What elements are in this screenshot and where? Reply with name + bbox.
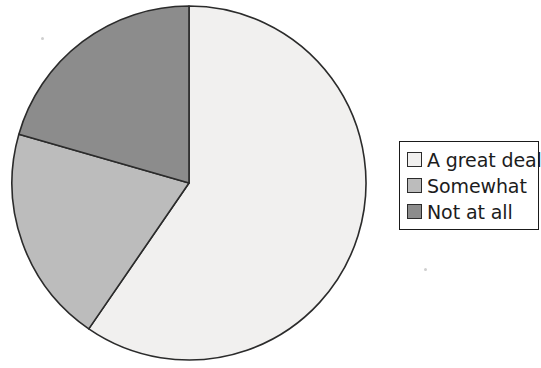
legend-swatch-icon (407, 178, 422, 193)
legend-item-a-great-deal[interactable]: A great deal (407, 147, 533, 173)
legend-swatch-icon (407, 204, 422, 219)
legend-item-label: Somewhat (427, 176, 527, 196)
legend-item-label: Not at all (427, 202, 513, 222)
legend-item-somewhat[interactable]: Somewhat (407, 173, 533, 199)
legend-item-not-at-all[interactable]: Not at all (407, 199, 533, 225)
pie-slices-group (12, 6, 366, 360)
legend: A great deal Somewhat Not at all (399, 141, 539, 230)
scan-artifact-speck (41, 37, 44, 40)
legend-swatch-icon (407, 152, 422, 167)
legend-item-label: A great deal (427, 150, 541, 170)
pie-chart-figure: A great deal Somewhat Not at all (0, 0, 541, 368)
scan-artifact-speck (424, 268, 427, 271)
